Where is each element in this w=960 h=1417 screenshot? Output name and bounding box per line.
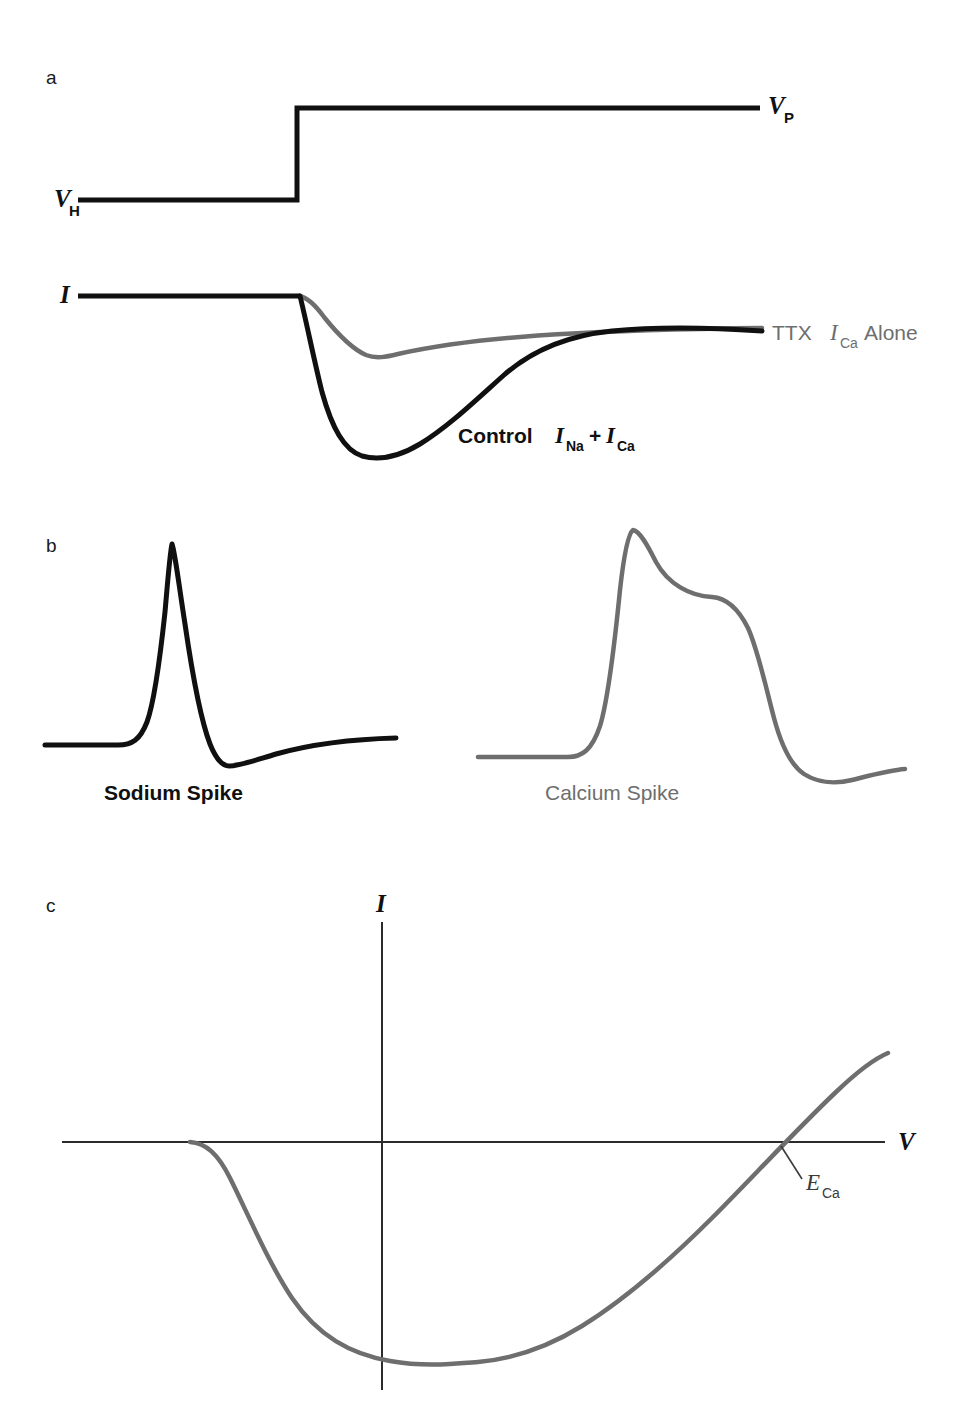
iv-curve-trace — [190, 1053, 888, 1365]
panel-a-letter: a — [46, 67, 57, 88]
iv-y-axis-label: I — [375, 890, 387, 917]
panel-c-letter: c — [46, 895, 56, 916]
panel-a: a V H V P — [46, 67, 918, 458]
vh-subscript: H — [69, 202, 80, 219]
voltage-command-trace — [78, 108, 760, 200]
calcium-spike-label: Calcium Spike — [545, 781, 679, 804]
scientific-figure: a V H V P — [0, 0, 960, 1417]
panel-b: b Sodium Spike Calcium Spike — [45, 530, 905, 804]
sodium-spike-label: Sodium Spike — [104, 781, 243, 804]
calcium-spike-trace — [478, 530, 905, 782]
eca-subscript: Ca — [822, 1185, 840, 1201]
label-current: I — [59, 281, 71, 308]
ttx-legend-prefix: TTX — [772, 321, 812, 344]
legend-ttx-trace: TTX I Ca Alone — [772, 320, 918, 351]
control-legend-ica-subscript: Ca — [617, 438, 635, 454]
label-holding-potential: V H — [54, 185, 80, 219]
eca-leader-line — [781, 1146, 802, 1179]
legend-control-trace: Control I Na + I Ca — [458, 423, 635, 454]
iv-x-axis-label: V — [898, 1128, 917, 1155]
panel-c: c I V E Ca — [46, 890, 917, 1390]
calcium-spike-path — [478, 530, 905, 782]
sodium-spike-trace — [45, 544, 396, 766]
vp-subscript: P — [784, 109, 794, 126]
control-legend-ina-symbol: I — [554, 423, 565, 448]
ttx-legend-suffix: Alone — [864, 321, 918, 344]
voltage-step-path — [78, 108, 760, 200]
ttx-legend-ica-symbol: I — [829, 320, 839, 345]
eca-symbol: E — [805, 1170, 820, 1195]
ttx-legend-ica-subscript: Ca — [840, 335, 858, 351]
control-legend-operator: + — [589, 424, 601, 447]
control-legend-ina-subscript: Na — [566, 438, 584, 454]
sodium-spike-path — [45, 544, 396, 766]
panel-b-letter: b — [46, 535, 57, 556]
current-symbol: I — [59, 281, 71, 308]
eca-annotation: E Ca — [781, 1146, 840, 1201]
label-pulse-potential: V P — [768, 92, 794, 126]
iv-curve-path — [190, 1053, 888, 1365]
control-legend-prefix: Control — [458, 424, 533, 447]
control-legend-ica-symbol: I — [605, 423, 616, 448]
figure-root: a V H V P — [0, 0, 960, 1417]
current-traces — [78, 296, 762, 458]
